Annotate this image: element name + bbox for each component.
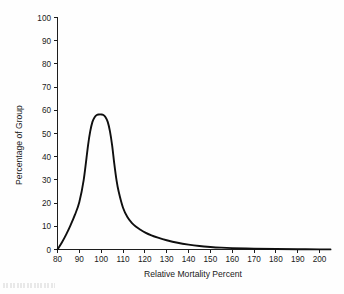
- x-tick-label: 120: [138, 255, 152, 264]
- data-series-group: [58, 114, 331, 249]
- y-axis-tick-labels: 0102030405060708090100: [37, 14, 51, 255]
- series-line-percentage-of-group: [58, 114, 331, 249]
- x-axis-tick-labels: 8090100110120130140150160170180190200: [53, 255, 327, 264]
- y-tick-label: 0: [46, 246, 51, 255]
- x-tick-label: 90: [75, 255, 85, 264]
- axes: [58, 18, 331, 250]
- x-tick-label: 150: [204, 255, 218, 264]
- y-tick-label: 30: [42, 176, 52, 185]
- x-tick-label: 140: [182, 255, 196, 264]
- chart-figure: 0102030405060708090100 80901001101201301…: [0, 0, 344, 294]
- x-tick-label: 200: [313, 255, 327, 264]
- y-tick-label: 10: [42, 222, 52, 231]
- y-tick-label: 100: [37, 14, 51, 23]
- y-tick-label: 70: [42, 83, 52, 92]
- x-axis-title: Relative Mortality Percent: [144, 269, 243, 279]
- x-tick-label: 80: [53, 255, 63, 264]
- y-axis-ticks: [54, 18, 58, 250]
- y-tick-label: 50: [42, 130, 52, 139]
- y-tick-label: 20: [42, 199, 52, 208]
- y-tick-label: 90: [42, 37, 52, 46]
- mortality-distribution-chart: 0102030405060708090100 80901001101201301…: [0, 0, 344, 294]
- y-tick-label: 40: [42, 153, 52, 162]
- y-tick-label: 80: [42, 60, 52, 69]
- y-tick-label: 60: [42, 106, 52, 115]
- x-tick-label: 130: [160, 255, 174, 264]
- x-tick-label: 110: [116, 255, 129, 264]
- y-axis-title: Percentage of Group: [14, 105, 24, 185]
- x-tick-label: 190: [291, 255, 305, 264]
- x-tick-label: 180: [269, 255, 283, 264]
- x-tick-label: 100: [94, 255, 108, 264]
- x-tick-label: 170: [247, 255, 261, 264]
- x-tick-label: 160: [225, 255, 239, 264]
